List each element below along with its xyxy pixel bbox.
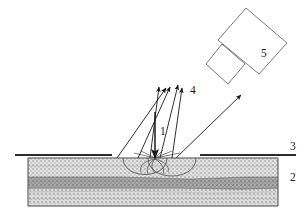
detector-5	[206, 8, 287, 84]
callout-label-3: 3	[290, 140, 296, 152]
figure-root: 1 2 3 4 5	[0, 0, 307, 213]
callout-label-2: 2	[290, 171, 296, 183]
layered-substrate	[28, 158, 278, 206]
callout-label-1: 1	[160, 125, 166, 137]
bottom-layer	[28, 188, 278, 206]
callout-label-5: 5	[261, 47, 267, 59]
emitted-ray-5	[172, 88, 182, 158]
middle-layer	[28, 177, 278, 189]
callout-label-4: 4	[190, 84, 196, 96]
emitted-ray-4	[160, 85, 178, 158]
emitted-rays	[117, 85, 241, 158]
schematic-diagram: 1 2 3 4 5	[0, 0, 307, 213]
emitted-ray-6	[176, 95, 241, 158]
emitted-ray-3	[138, 87, 170, 158]
emitted-ray-2	[117, 88, 166, 158]
